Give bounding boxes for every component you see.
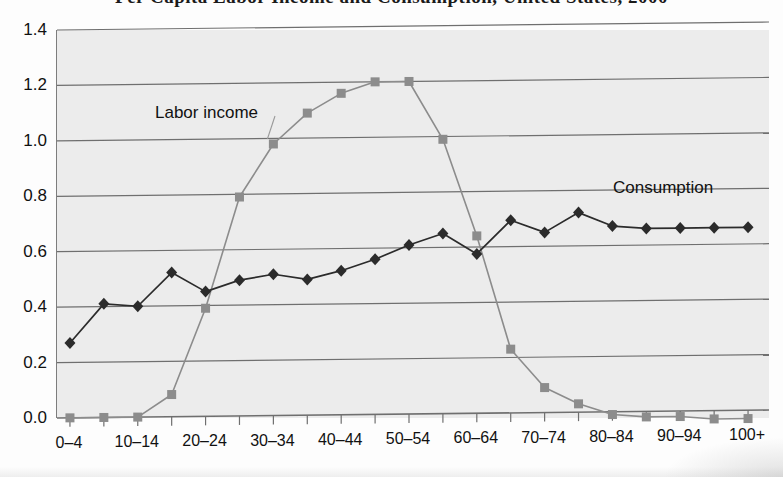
marker-consumption xyxy=(607,220,618,232)
consumption-annotation: Consumption xyxy=(613,178,713,198)
marker-consumption xyxy=(641,222,652,234)
marker-labor-income xyxy=(99,413,108,422)
gridline xyxy=(57,355,769,363)
marker-consumption xyxy=(370,253,381,265)
marker-labor-income xyxy=(540,383,549,392)
marker-consumption xyxy=(302,273,313,285)
marker-labor-income xyxy=(405,77,414,86)
marker-consumption xyxy=(539,226,550,238)
labor-income-annotation: Labor income xyxy=(155,103,258,123)
marker-labor-income xyxy=(608,410,617,419)
marker-labor-income xyxy=(438,135,447,144)
marker-labor-income xyxy=(506,345,515,354)
gridline xyxy=(57,133,769,141)
marker-consumption xyxy=(268,268,279,280)
x-tick-label: 0–4 xyxy=(56,434,83,452)
marker-consumption xyxy=(573,207,584,219)
marker-labor-income xyxy=(710,414,719,423)
marker-labor-income xyxy=(642,412,651,421)
x-tick-label: 80–84 xyxy=(589,428,634,446)
marker-labor-income xyxy=(65,413,74,422)
chart-figure: Per Capita Labor Income and Consumption,… xyxy=(0,0,783,477)
marker-labor-income xyxy=(337,89,346,98)
marker-labor-income xyxy=(201,304,210,313)
chart-canvas xyxy=(57,30,769,418)
marker-labor-income xyxy=(472,231,481,240)
gridline xyxy=(57,299,769,307)
labor-income-leader-line xyxy=(267,116,275,139)
x-tick-label: 50–54 xyxy=(386,430,431,448)
marker-labor-income xyxy=(235,193,244,202)
marker-consumption xyxy=(675,222,686,234)
marker-consumption xyxy=(234,274,245,286)
marker-labor-income xyxy=(744,414,753,423)
x-tick-label: 90–94 xyxy=(657,427,702,445)
marker-labor-income xyxy=(676,412,685,421)
plot-area xyxy=(56,30,769,418)
marker-consumption xyxy=(709,222,720,234)
marker-labor-income xyxy=(133,413,142,422)
marker-consumption xyxy=(404,239,415,251)
x-tick-label: 70–74 xyxy=(521,429,566,447)
x-tick-label: 30–34 xyxy=(250,432,295,450)
x-tick-label: 10–14 xyxy=(115,433,160,451)
marker-labor-income xyxy=(269,139,278,148)
marker-consumption xyxy=(336,265,347,277)
marker-labor-income xyxy=(167,390,176,399)
marker-labor-income xyxy=(371,77,380,86)
marker-consumption xyxy=(743,221,754,233)
x-tick-label: 100+ xyxy=(729,426,765,444)
x-tick-label: 20–24 xyxy=(182,432,227,450)
x-tick-label: 60–64 xyxy=(454,429,499,447)
marker-consumption xyxy=(437,228,448,240)
marker-labor-income xyxy=(574,399,583,408)
x-tick-label: 40–44 xyxy=(318,431,363,449)
marker-labor-income xyxy=(303,109,312,118)
